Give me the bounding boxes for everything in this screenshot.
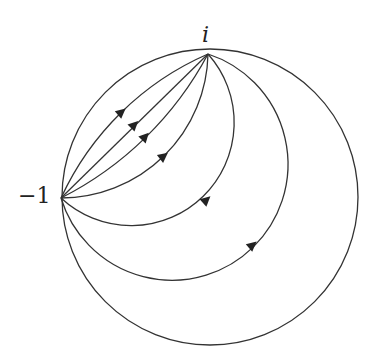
point-label-minus-one: −1 — [18, 183, 50, 208]
arrow-icon — [138, 129, 152, 143]
diagram: i −1 — [0, 0, 368, 359]
arrow-icon — [246, 238, 260, 252]
arcs-figure — [0, 0, 368, 359]
point-label-i: i — [202, 22, 209, 47]
arrow-icon — [200, 193, 214, 207]
arrow-icon — [128, 117, 142, 131]
